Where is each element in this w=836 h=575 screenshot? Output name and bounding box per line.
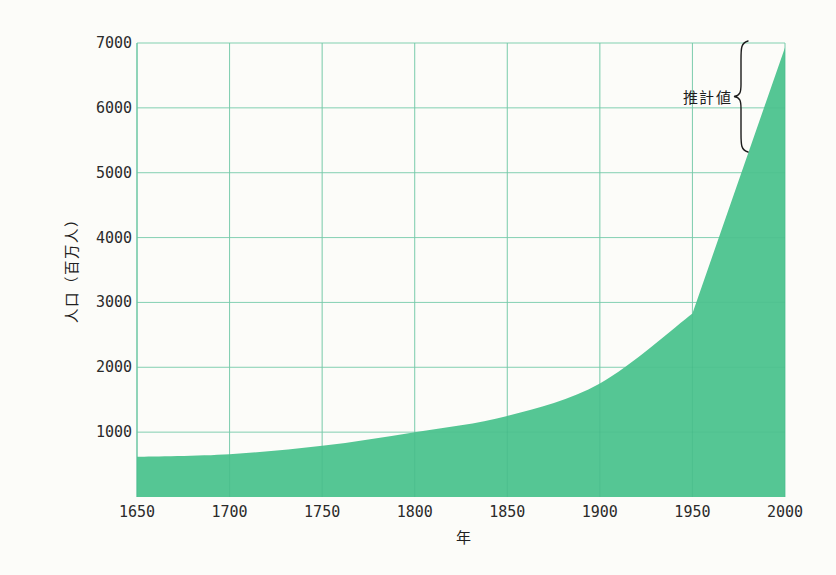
x-tick-label: 1700 xyxy=(194,503,266,521)
y-tick-label: 6000 xyxy=(80,99,132,117)
x-tick-label: 1650 xyxy=(101,503,173,521)
y-tick-label: 5000 xyxy=(80,164,132,182)
x-tick-label: 1750 xyxy=(286,503,358,521)
x-tick-label: 2000 xyxy=(749,503,821,521)
x-tick-label: 1800 xyxy=(379,503,451,521)
y-tick-label: 7000 xyxy=(80,34,132,52)
x-tick-label: 1950 xyxy=(656,503,728,521)
y-tick-label: 1000 xyxy=(80,423,132,441)
world-population-area-chart: 1000200030004000500060007000 16501700175… xyxy=(0,0,836,575)
population-area-series xyxy=(137,48,785,497)
y-axis-title: 人口（百万人） xyxy=(60,211,81,323)
y-tick-label: 4000 xyxy=(80,229,132,247)
x-axis-title: 年 xyxy=(456,526,473,547)
x-tick-label: 1900 xyxy=(564,503,636,521)
estimate-brace-icon xyxy=(734,41,748,152)
y-tick-label: 2000 xyxy=(80,358,132,376)
x-tick-label: 1850 xyxy=(471,503,543,521)
estimate-annotation-label: 推計値 xyxy=(680,86,732,107)
y-tick-label: 3000 xyxy=(80,293,132,311)
